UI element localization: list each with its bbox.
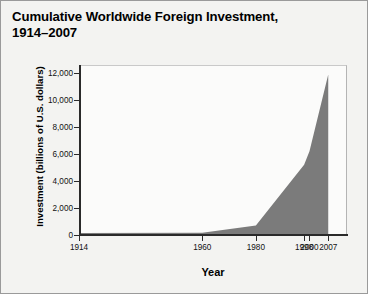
y-axis-tick-label: 12,000: [25, 69, 73, 78]
y-axis-tick-mark: [74, 181, 79, 182]
area-series-polygon: [79, 74, 328, 235]
y-axis-tick-mark: [74, 100, 79, 101]
y-axis-tick-label: 4,000: [25, 177, 73, 186]
x-axis-tick-mark: [202, 236, 203, 241]
y-axis-tick-label: 6,000: [25, 150, 73, 159]
x-axis-line: [79, 234, 348, 236]
x-axis-label: Year: [79, 266, 347, 278]
area-series: [79, 65, 347, 235]
y-axis-tick-label: 0: [25, 231, 73, 240]
x-axis-tick-label: 1914: [70, 243, 88, 252]
y-axis-tick-mark: [74, 127, 79, 128]
chart-figure: Cumulative Worldwide Foreign Investment,…: [0, 0, 368, 294]
y-axis-tick-label: 10,000: [25, 96, 73, 105]
y-axis-tick-mark: [74, 154, 79, 155]
x-axis-tick-label: 2000: [300, 243, 318, 252]
x-axis-tick-label: 1980: [247, 243, 265, 252]
x-axis-tick-mark: [304, 236, 305, 241]
x-axis-tick-mark: [256, 236, 257, 241]
y-axis-tick-mark: [74, 208, 79, 209]
x-axis-tick-label: 1960: [193, 243, 211, 252]
x-axis-tick-mark: [309, 236, 310, 241]
x-axis-tick-mark: [328, 236, 329, 241]
y-axis-tick-mark: [74, 73, 79, 74]
y-axis-tick-label: 2,000: [25, 204, 73, 213]
y-axis-line: [79, 65, 81, 236]
y-axis-tick-label: 8,000: [25, 123, 73, 132]
x-axis-tick-label: 2007: [319, 243, 337, 252]
y-axis-label: Investment (billions of U.S. dollars): [34, 57, 45, 237]
x-axis-tick-mark: [79, 236, 80, 241]
